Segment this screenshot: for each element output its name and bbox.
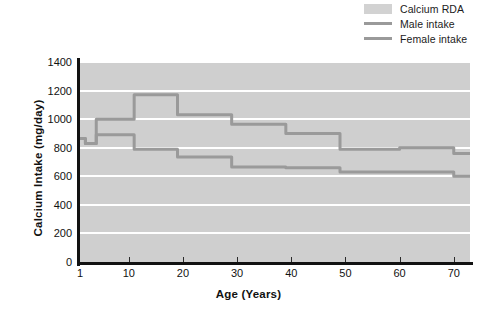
x-tick-label: 40 bbox=[285, 267, 297, 279]
x-tick-label: 10 bbox=[123, 267, 135, 279]
x-tick-label: 20 bbox=[177, 267, 189, 279]
x-tick-label: 50 bbox=[339, 267, 351, 279]
x-tick-label: 70 bbox=[448, 267, 460, 279]
y-axis-title: Calcium Intake (mg/day) bbox=[32, 68, 44, 268]
x-tick-mark bbox=[400, 257, 401, 262]
y-tick-label: 1400 bbox=[32, 56, 72, 68]
y-axis-line bbox=[77, 58, 80, 266]
x-tick-mark bbox=[345, 257, 346, 262]
x-tick-mark bbox=[129, 257, 130, 262]
series-lines bbox=[80, 62, 470, 262]
x-tick-mark bbox=[237, 257, 238, 262]
series-line-male-intake bbox=[80, 95, 470, 154]
plot-area bbox=[80, 62, 470, 262]
x-tick-label: 30 bbox=[231, 267, 243, 279]
x-tick-label: 1 bbox=[77, 267, 83, 279]
series-line-female-intake bbox=[80, 135, 470, 176]
x-tick-label: 60 bbox=[393, 267, 405, 279]
calcium-intake-line-chart: 0200400600800100012001400 11020304050607… bbox=[0, 0, 497, 316]
x-tick-mark bbox=[183, 257, 184, 262]
x-tick-mark bbox=[454, 257, 455, 262]
x-axis-title: Age (Years) bbox=[0, 288, 497, 300]
x-axis-line bbox=[77, 262, 473, 265]
x-tick-mark bbox=[291, 257, 292, 262]
